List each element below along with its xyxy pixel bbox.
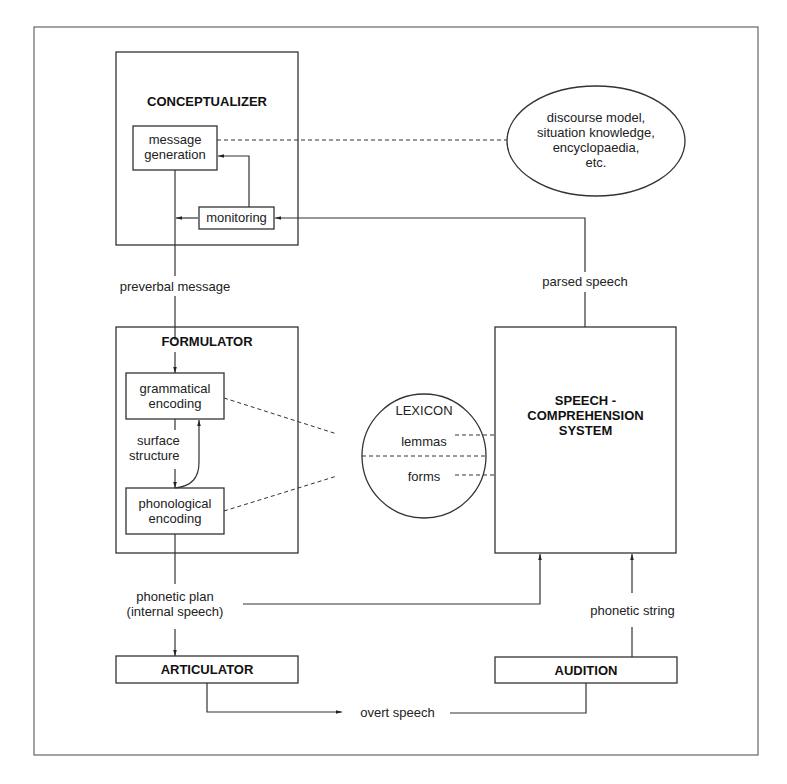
knowledge-line1: discourse model, <box>507 110 685 125</box>
forms-label: forms <box>374 469 474 484</box>
surface-line2: structure <box>125 448 225 463</box>
overt-speech-arrow <box>207 683 342 712</box>
phonological-lexicon-link <box>224 476 337 511</box>
conceptualizer-label: CONCEPTUALIZER <box>116 94 298 109</box>
lexicon-label: LEXICON <box>374 403 474 418</box>
message-generation-line1: message <box>133 132 217 147</box>
parsed-speech-label: parsed speech <box>530 274 640 289</box>
message-generation-label: message generation <box>133 132 217 162</box>
knowledge-line3: encyclopaedia, <box>507 140 685 155</box>
knowledge-line2: situation knowledge, <box>507 125 685 140</box>
phonetic-string-label: phonetic string <box>580 603 685 618</box>
monitoring-label: monitoring <box>199 210 274 225</box>
phonological-line1: phonological <box>126 496 224 511</box>
internal-speech-to-comprehension-arrow <box>243 554 540 604</box>
comprehension-line3: SYSTEM <box>495 423 676 438</box>
knowledge-line4: etc. <box>507 155 685 170</box>
overt-speech-label: overt speech <box>350 705 445 720</box>
phonological-encoding-label: phonological encoding <box>126 496 224 526</box>
knowledge-store-label: discourse model, situation knowledge, en… <box>507 110 685 170</box>
grammatical-lexicon-link <box>224 398 337 434</box>
message-generation-line2: generation <box>133 147 217 162</box>
grammatical-encoding-label: grammatical encoding <box>126 381 224 411</box>
phonetic-plan-line2: (internal speech) <box>115 604 235 619</box>
lemmas-label: lemmas <box>374 434 474 449</box>
surface-structure-label: surface structure <box>125 433 225 463</box>
phonological-line2: encoding <box>126 511 224 526</box>
speech-comprehension-label: SPEECH - COMPREHENSION SYSTEM <box>495 393 676 438</box>
parsed-speech-line-upper <box>275 218 585 272</box>
monitoring-to-message-arrow <box>218 156 249 207</box>
phonetic-plan-label: phonetic plan (internal speech) <box>115 589 235 619</box>
preverbal-message-label: preverbal message <box>105 279 245 294</box>
articulator-label: ARTICULATOR <box>116 662 298 677</box>
grammatical-line1: grammatical <box>126 381 224 396</box>
audition-label: AUDITION <box>495 663 677 678</box>
comprehension-line1: SPEECH - <box>495 393 676 408</box>
surface-line1: surface <box>125 433 225 448</box>
grammatical-line2: encoding <box>126 396 224 411</box>
speech-comprehension-box <box>495 327 676 553</box>
comprehension-line2: COMPREHENSION <box>495 408 676 423</box>
overt-speech-to-audition-line <box>450 683 586 713</box>
formulator-label: FORMULATOR <box>116 334 298 349</box>
phonetic-plan-line1: phonetic plan <box>115 589 235 604</box>
